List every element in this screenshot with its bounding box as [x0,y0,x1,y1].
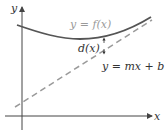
diagram-canvas: x y y = f(x) d(x) y = mx + b [0,0,167,135]
line-label: y = mx + b [101,60,164,73]
y-axis-label: y [10,2,18,15]
curve-label: y = f(x) [69,18,111,31]
x-axis-label: x [154,110,161,123]
distance-label: d(x) [78,42,100,55]
